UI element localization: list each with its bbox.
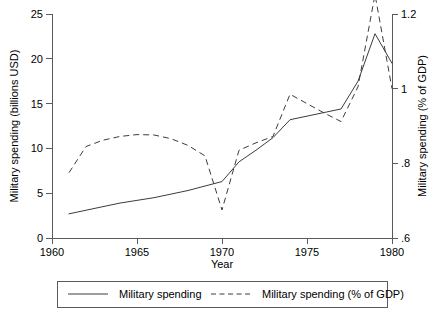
right-tick-label: 1.2 [401,8,416,20]
x-tick-label: 1965 [125,246,149,258]
series-group [69,0,392,214]
series-military-spending-line [69,34,392,214]
left-axis-ticks: 0510152025 [31,8,52,244]
x-axis-title: Year [211,258,234,270]
x-tick-label: 1980 [380,246,404,258]
left-tick-label: 25 [31,8,43,20]
right-tick-label: .8 [401,157,410,169]
chart-legend: Military spending Military spending (% o… [57,281,404,307]
y2-axis-title: Military spending (% of GDP) [416,55,428,197]
y-axis-title: Military spending (billions USD) [8,50,20,203]
x-tick-label: 1960 [40,246,64,258]
left-tick-label: 15 [31,98,43,110]
legend-label-0: Military spending [119,288,202,300]
left-tick-label: 0 [37,232,43,244]
left-tick-label: 20 [31,53,43,65]
legend-label-1: Military spending (% of GDP) [262,288,404,300]
plot-axes [52,14,392,238]
left-tick-label: 5 [37,187,43,199]
x-tick-label: 1970 [210,246,234,258]
right-tick-label: .6 [401,232,410,244]
x-axis-ticks: 19601965197019751980 [40,238,404,258]
chart-svg: 0510152025 .6.811.2 19601965197019751980… [0,0,438,314]
right-axis-ticks: .6.811.2 [392,8,416,244]
right-tick-label: 1 [401,83,407,95]
left-tick-label: 10 [31,142,43,154]
chart-figure: 0510152025 .6.811.2 19601965197019751980… [0,0,438,314]
x-tick-label: 1975 [295,246,319,258]
